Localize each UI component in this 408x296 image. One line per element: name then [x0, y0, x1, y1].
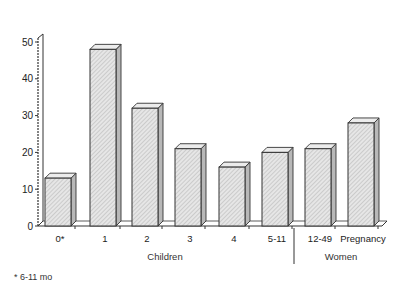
- bar-chart: 01020304050 0*12345-1112-49Pregnancy Chi…: [0, 0, 408, 296]
- x-tick-label: 4: [231, 233, 236, 244]
- bar-1: [90, 44, 121, 226]
- footnote: * 6-11 mo: [14, 272, 52, 282]
- y-tick-label: 20: [22, 147, 34, 158]
- bar-4: [219, 162, 250, 226]
- x-tick-label: 0*: [56, 233, 65, 244]
- x-tick-label: 2: [144, 233, 149, 244]
- y-tick-label: 10: [22, 184, 34, 195]
- bar-3: [175, 144, 206, 226]
- y-tick-label: 0: [27, 221, 33, 232]
- x-axis-labels: 0*12345-1112-49Pregnancy: [56, 233, 386, 244]
- x-tick-label: 12-49: [308, 233, 332, 244]
- y-tick-label: 30: [22, 110, 34, 121]
- x-tick-label: Pregnancy: [340, 233, 386, 244]
- x-tick-label: 1: [102, 233, 107, 244]
- y-tick-label: 50: [22, 37, 34, 48]
- y-tick-label: 40: [22, 73, 34, 84]
- bar-5-11: [262, 147, 293, 226]
- bar-Pregnancy: [348, 118, 379, 226]
- x-tick-label: 3: [187, 233, 192, 244]
- bar-0*: [45, 173, 76, 226]
- group-label-women: Women: [325, 251, 358, 262]
- x-tick-label: 5-11: [268, 233, 286, 244]
- group-label-children: Children: [147, 251, 182, 262]
- bars: [45, 44, 379, 226]
- bar-12-49: [305, 144, 336, 226]
- bar-2: [132, 103, 163, 226]
